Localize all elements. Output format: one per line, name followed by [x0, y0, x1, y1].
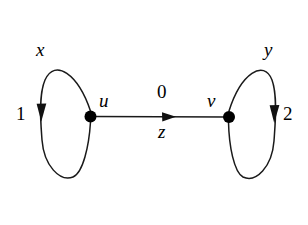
self-loop-right [229, 70, 280, 178]
node-u[interactable] [85, 111, 97, 123]
self-loop-left [37, 70, 91, 178]
self-loop-right-weight: 2 [283, 104, 293, 123]
node-v[interactable] [223, 111, 235, 123]
self-loop-left-path [41, 70, 91, 178]
edge-u-to-v-line [92, 117, 227, 118]
edge-u-to-v-bottom-label: z [158, 122, 165, 141]
self-loop-left-arrowhead [37, 104, 47, 122]
self-loop-left-weight: 1 [16, 104, 26, 123]
self-loop-right-arrowhead [270, 105, 280, 123]
self-loop-right-label: y [264, 40, 272, 59]
self-loop-right-path [229, 70, 276, 178]
self-loop-left-label: x [36, 40, 44, 59]
edge-u-to-v-top-label: 0 [157, 82, 167, 101]
node-u-label: u [99, 91, 109, 110]
graph-canvas [0, 0, 308, 225]
node-v-label: v [207, 91, 215, 110]
graph-figure: x 1 u 0 z v y 2 [0, 0, 308, 225]
